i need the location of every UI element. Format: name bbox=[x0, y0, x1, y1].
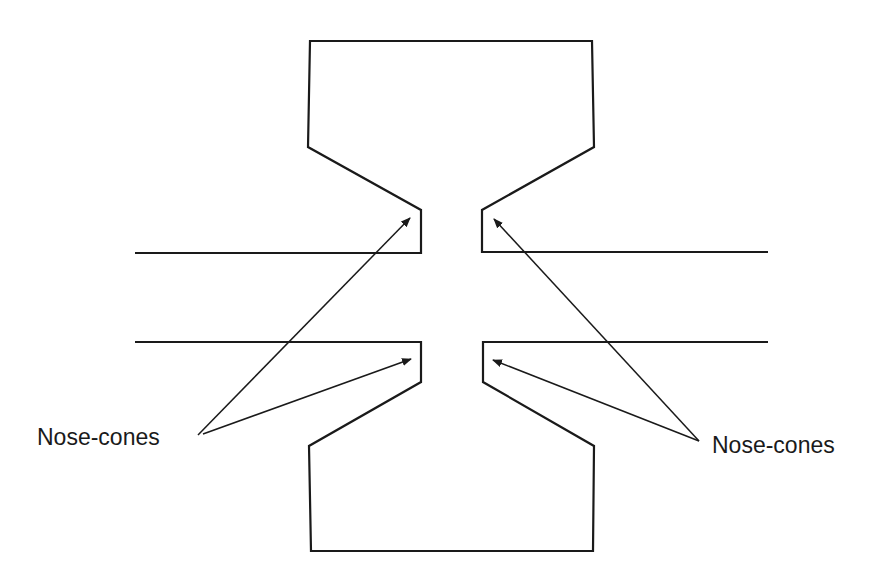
bottom-pole-piece bbox=[135, 342, 768, 551]
nose-cones-label-left: Nose-cones bbox=[37, 426, 160, 449]
left-arrow-upper bbox=[198, 218, 410, 435]
top-pole-piece bbox=[135, 41, 768, 253]
nose-cones-label-right: Nose-cones bbox=[712, 434, 835, 457]
left-arrow-lower bbox=[203, 359, 411, 434]
nose-cones-diagram: Nose-cones Nose-cones bbox=[0, 0, 893, 583]
diagram-drawing bbox=[0, 0, 893, 583]
right-arrow-lower bbox=[493, 360, 699, 441]
